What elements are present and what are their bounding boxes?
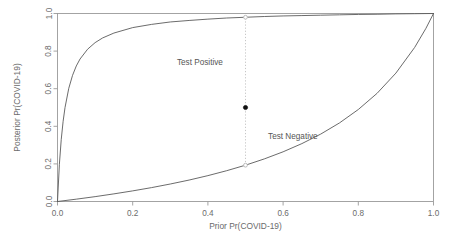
marker-selected-prior-point	[243, 105, 247, 109]
x-axis-title: Prior Pr(COVID-19)	[209, 221, 282, 231]
y-tick-label: 0.6	[45, 83, 54, 95]
x-tick-label: 0.4	[202, 209, 214, 218]
chart-figure: 0.00.20.40.60.81.0 0.00.20.40.60.81.0 Pr…	[0, 0, 459, 242]
y-tick-label: 1.0	[45, 7, 54, 19]
y-tick-label: 0.0	[45, 195, 54, 207]
y-tick-label: 0.2	[45, 158, 54, 170]
plot-background	[0, 0, 459, 242]
plot-canvas: 0.00.20.40.60.81.0 0.00.20.40.60.81.0 Pr…	[0, 0, 459, 242]
x-tick-label: 1.0	[428, 209, 440, 218]
marker-negative-intersection	[244, 163, 248, 167]
x-tick-label: 0.8	[353, 209, 365, 218]
x-tick-label: 0.2	[127, 209, 139, 218]
annotation-test-positive: Test Positive	[177, 58, 223, 67]
y-tick-label: 0.4	[45, 120, 54, 132]
x-tick-label: 0.0	[52, 209, 64, 218]
y-tick-label: 0.8	[45, 45, 54, 57]
y-axis-title: Posterior Pr(COVID-19)	[12, 63, 22, 152]
x-tick-label: 0.6	[277, 209, 289, 218]
annotation-test-negative: Test Negative	[268, 132, 318, 141]
marker-positive-intersection	[244, 15, 248, 19]
